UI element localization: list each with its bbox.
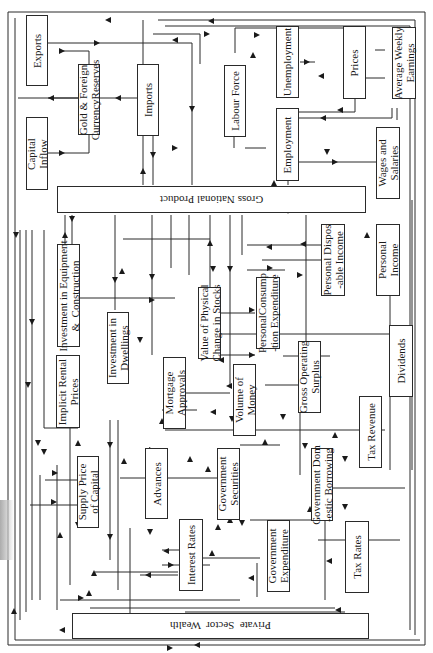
node-unemployment: Unemployment: [276, 26, 299, 98]
node-government-domestic-borrowing: Government Dom -estic Borrowing: [311, 448, 333, 521]
node-label: Supply Price of Capital: [76, 464, 100, 521]
node-labour-force: Labour Force: [224, 65, 246, 137]
node-gross-operating-surplus: Gross Operating Surplus: [298, 341, 321, 413]
node-label: Government Securities: [217, 457, 241, 512]
node-tax-rates: Tax Rates: [345, 521, 369, 593]
node-imports: Imports: [137, 64, 159, 136]
node-gold-reserves: Gold & Foreign CurrencyReserves: [78, 64, 100, 135]
node-label: Average Weekly Earnings: [392, 27, 416, 99]
node-label: Interest Rates: [185, 525, 197, 585]
node-value-physical-change-stocks: Value of Physical Change in Stocks: [198, 287, 221, 359]
node-label: Tax Rates: [351, 535, 363, 579]
node-government-securities: Government Securities: [217, 448, 240, 520]
node-wages-salaries: Wages and Salaries: [376, 127, 400, 199]
node-label: PersonalConsump -tion Expenditure: [256, 273, 280, 353]
node-personal-disposable-income: Personal Dispos -able Income: [321, 224, 345, 296]
node-private-sector-wealth: Private Sector Wealth: [72, 613, 369, 639]
node-label: Mortgage Approvals: [163, 370, 187, 416]
node-label: Private Sector Wealth: [170, 620, 271, 632]
node-employment: Employment: [276, 108, 299, 181]
node-label: Imports: [142, 83, 154, 117]
node-label: Volume of Money: [233, 377, 257, 423]
node-implicit-rental-prices: Implicit Rental Prices: [56, 355, 80, 428]
node-government-expenditure: Government Expenditure: [267, 520, 290, 592]
node-label: Gross National Product: [160, 194, 263, 206]
node-label: Gold & Foreign CurrencyReserves: [77, 59, 101, 140]
node-average-weekly-earnings: Average Weekly Earnings: [392, 27, 416, 99]
node-label: Personal Income: [376, 241, 400, 279]
node-label: Capital Inflow: [25, 138, 49, 170]
node-label: Exports: [31, 33, 43, 67]
node-personal-income: Personal Income: [376, 224, 400, 296]
node-label: Prices: [349, 49, 361, 76]
node-exports: Exports: [26, 15, 48, 86]
node-label: Value of Physical Change in Stocks: [198, 285, 222, 362]
node-dividends: Dividends: [389, 325, 413, 397]
node-label: Government Dom -estic Borrowing: [310, 445, 334, 525]
node-label: Investment in Dwellings: [106, 318, 130, 378]
node-label: Government Expenditure: [267, 529, 291, 584]
node-label: Tax Revenue: [365, 403, 377, 461]
node-advances: Advances: [145, 448, 168, 519]
node-mortgage-approvals: Mortgage Approvals: [163, 357, 186, 429]
node-label: Personal Dispos -able Income: [321, 224, 345, 295]
node-label: Dividends: [395, 338, 407, 383]
node-label: Unemployment: [282, 28, 294, 96]
node-label: Employment: [282, 116, 294, 173]
node-label: Wages and Salaries: [376, 139, 400, 187]
node-investment-equipment-construction: Investment in Equipment & Construction: [57, 244, 80, 347]
node-label: Implicit Rental Prices: [56, 358, 80, 424]
node-interest-rates: Interest Rates: [179, 519, 203, 591]
node-supply-price-capital: Supply Price of Capital: [77, 456, 99, 528]
node-tax-revenue: Tax Revenue: [359, 396, 382, 468]
node-personal-consumption-expenditure: PersonalConsump -tion Expenditure: [256, 277, 280, 349]
node-label: Labour Force: [229, 71, 241, 131]
node-label: Gross Operating Surplus: [298, 341, 322, 413]
node-volume-of-money: Volume of Money: [233, 364, 256, 436]
node-investment-dwellings: Investment in Dwellings: [107, 312, 129, 384]
node-label: Investment in Equipment & Construction: [57, 240, 81, 351]
node-capital-inflow: Capital Inflow: [26, 117, 48, 190]
node-label: Advances: [151, 462, 163, 505]
node-prices: Prices: [343, 26, 366, 99]
node-gross-national-product: Gross National Product: [57, 186, 366, 213]
scan-shadow: [0, 500, 14, 560]
